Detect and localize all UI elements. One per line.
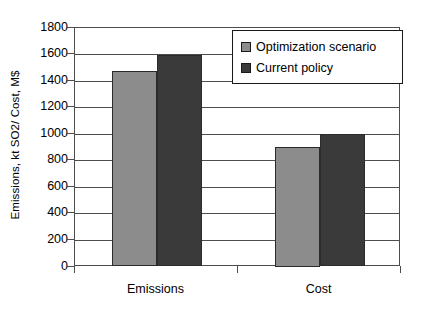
bar-cost-current-policy bbox=[320, 134, 365, 267]
y-axis-tick-mark bbox=[66, 133, 74, 134]
legend-item: Current policy bbox=[241, 58, 402, 78]
y-axis-tick-mark bbox=[66, 212, 74, 213]
y-axis-tick-label: 400 bbox=[22, 205, 68, 219]
x-axis-category-label: Cost bbox=[306, 282, 332, 296]
y-axis-tick-label: 1400 bbox=[22, 73, 68, 87]
y-axis-tick-mark bbox=[66, 27, 74, 28]
legend-swatch-optimization-scenario bbox=[241, 42, 251, 52]
y-axis-tick-label: 600 bbox=[22, 179, 68, 193]
bar-emissions-optimization-scenario bbox=[112, 71, 157, 266]
x-axis-tick-mark bbox=[400, 266, 401, 273]
y-axis-tick-mark bbox=[66, 186, 74, 187]
legend-label-current-policy: Current policy bbox=[256, 61, 333, 75]
y-axis-tick-mark bbox=[66, 80, 74, 81]
y-axis-tick-mark bbox=[66, 106, 74, 107]
y-axis-tick-label: 1000 bbox=[22, 126, 68, 140]
x-axis-tick-mark bbox=[237, 266, 238, 273]
x-axis-tick-mark bbox=[74, 266, 75, 273]
y-axis-tick-label: 1800 bbox=[22, 20, 68, 34]
legend-item: Optimization scenario bbox=[241, 37, 402, 57]
y-axis-tick-label: 1200 bbox=[22, 99, 68, 113]
y-axis-tick-label: 200 bbox=[22, 232, 68, 246]
bar-cost-optimization-scenario bbox=[275, 147, 320, 267]
legend-swatch-current-policy bbox=[241, 63, 251, 73]
y-axis-title: Emissions, kt SO2/ Cost, M$ bbox=[0, 0, 30, 290]
x-axis-category-label: Emissions bbox=[127, 282, 184, 296]
y-axis-tick-mark bbox=[66, 266, 74, 267]
bar-chart: Emissions, kt SO2/ Cost, M$ 020040060080… bbox=[0, 0, 424, 319]
y-axis-tick-mark bbox=[66, 159, 74, 160]
y-axis-tick-mark bbox=[66, 53, 74, 54]
legend-label-optimization-scenario: Optimization scenario bbox=[256, 40, 376, 54]
y-axis-tick-label: 800 bbox=[22, 152, 68, 166]
y-axis-tick-mark bbox=[66, 239, 74, 240]
y-axis-title-text: Emissions, kt SO2/ Cost, M$ bbox=[9, 70, 21, 219]
y-axis-tick-label: 0 bbox=[22, 259, 68, 273]
bar-emissions-current-policy bbox=[157, 55, 202, 266]
legend: Optimization scenario Current policy bbox=[232, 30, 403, 84]
y-axis-tick-label: 1600 bbox=[22, 46, 68, 60]
